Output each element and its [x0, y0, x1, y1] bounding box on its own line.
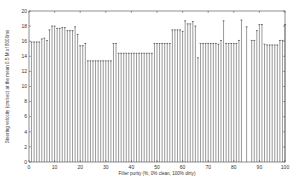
x-tick-label: 0 — [28, 164, 31, 170]
bars-group — [31, 20, 286, 162]
bar — [233, 43, 235, 162]
bar — [151, 53, 153, 162]
bar — [72, 31, 74, 162]
bar — [259, 25, 261, 162]
bar — [276, 45, 278, 162]
bar — [118, 53, 120, 162]
bar — [100, 61, 102, 162]
y-tick-label: 14 — [21, 53, 27, 59]
y-tick-label: 16 — [21, 38, 27, 44]
bar — [82, 46, 84, 162]
bar — [64, 28, 66, 162]
x-tick-label: 60 — [180, 164, 186, 170]
bar — [192, 22, 194, 162]
bar — [161, 43, 163, 162]
bar — [184, 21, 186, 162]
bar — [182, 31, 184, 162]
bar — [123, 53, 125, 162]
bar — [136, 53, 138, 162]
bar — [133, 53, 135, 162]
bar — [128, 53, 130, 162]
y-tick-label: 0 — [24, 159, 27, 165]
x-tick-label: 100 — [281, 164, 290, 170]
bar — [90, 61, 92, 162]
bar — [202, 43, 204, 162]
bar — [115, 43, 117, 162]
bar — [131, 53, 133, 162]
y-axis-label: Steering velocity (cm/sec) at the mean 0… — [5, 29, 10, 143]
y-tick-label: 12 — [21, 68, 27, 74]
bar — [171, 30, 173, 162]
bar — [107, 61, 109, 162]
bar — [187, 24, 189, 162]
bar-chart: 0102030405060708090100 02468101214161820… — [0, 0, 304, 183]
x-tick-label: 80 — [231, 164, 237, 170]
x-axis: 0102030405060708090100 — [28, 11, 290, 170]
bar — [102, 61, 104, 162]
bar — [141, 53, 143, 162]
bar — [54, 26, 56, 162]
bar — [95, 61, 97, 162]
bar — [228, 43, 230, 162]
x-tick-label: 10 — [52, 164, 58, 170]
bar — [110, 61, 112, 162]
bar — [269, 45, 271, 162]
bar — [271, 45, 273, 162]
bar — [164, 43, 166, 162]
bar — [146, 53, 148, 162]
y-tick-label: 4 — [24, 129, 27, 135]
bar — [49, 30, 51, 162]
bar — [138, 53, 140, 162]
x-tick-label: 30 — [103, 164, 109, 170]
bar — [46, 40, 48, 162]
x-tick-label: 20 — [77, 164, 83, 170]
bar — [218, 44, 220, 162]
bar — [67, 31, 69, 162]
bar — [74, 27, 76, 162]
bar — [166, 43, 168, 162]
bar — [274, 45, 276, 162]
bar — [36, 42, 38, 162]
bar — [59, 28, 61, 162]
y-tick-label: 8 — [24, 98, 27, 104]
bar — [251, 40, 253, 162]
bar — [148, 53, 150, 162]
bar — [61, 28, 63, 162]
bar — [215, 43, 217, 162]
y-tick-label: 10 — [21, 83, 27, 89]
bar — [205, 43, 207, 162]
y-axis: 02468101214161820 — [21, 8, 285, 165]
bar — [279, 40, 281, 162]
bar — [125, 53, 127, 162]
bar — [97, 61, 99, 162]
bar — [31, 42, 33, 162]
x-tick-label: 50 — [154, 164, 160, 170]
bar — [113, 43, 115, 162]
bar — [195, 26, 197, 162]
x-tick-label: 90 — [257, 164, 263, 170]
bar — [92, 61, 94, 162]
bar — [256, 31, 258, 162]
bar — [159, 43, 161, 162]
bar — [77, 34, 79, 162]
bar — [207, 43, 209, 162]
bar — [223, 21, 225, 162]
bar — [282, 40, 284, 162]
y-tick-label: 6 — [24, 113, 27, 119]
bar — [230, 43, 232, 162]
bar — [212, 43, 214, 162]
y-tick-label: 18 — [21, 23, 27, 29]
bar — [179, 30, 181, 162]
bar — [197, 58, 199, 162]
bar — [156, 43, 158, 162]
bar — [235, 43, 237, 162]
bar — [41, 39, 43, 162]
x-tick-label: 40 — [129, 164, 135, 170]
bar — [210, 43, 212, 162]
bar — [38, 42, 40, 162]
bar — [33, 42, 35, 162]
bar — [241, 20, 243, 162]
bar — [154, 43, 156, 162]
bar — [51, 26, 53, 162]
bar — [174, 30, 176, 162]
